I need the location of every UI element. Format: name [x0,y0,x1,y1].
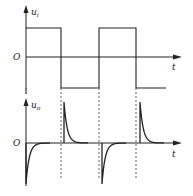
lower-plot: uo O t [13,98,182,186]
square-wave [26,28,166,88]
upper-origin-label: O [13,52,21,62]
upper-t-arrow-icon [173,55,182,60]
positive-spike [140,102,164,143]
negative-spike [26,143,50,184]
positive-spike [64,102,88,143]
upper-y-arrow-icon [24,5,29,13]
guide-lines [26,88,136,178]
lower-origin-label: O [13,138,21,148]
upper-y-label: ui [31,7,39,18]
lower-t-label: t [172,149,176,159]
negative-spike [102,143,126,184]
lower-y-arrow-icon [24,98,29,106]
waveform-diagram: ui O t uo O t [0,0,193,196]
lower-t-arrow-icon [173,141,182,146]
upper-plot: ui O t [13,5,182,94]
lower-y-label: uo [31,100,41,111]
upper-t-label: t [172,62,176,72]
